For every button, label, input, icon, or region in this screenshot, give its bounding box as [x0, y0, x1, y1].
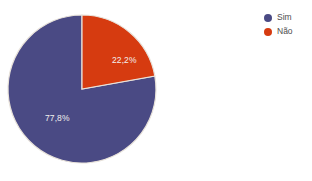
circle-marker-icon: [264, 28, 272, 36]
pie-slice-nao[interactable]: [82, 15, 155, 89]
legend-item-label: Não: [277, 25, 293, 38]
legend-item-sim[interactable]: Sim: [264, 11, 312, 24]
legend-item-nao[interactable]: Não: [264, 25, 312, 38]
pie-slice-label-sim: 77,8%: [45, 113, 70, 123]
circle-marker-icon: [264, 14, 272, 22]
legend-item-label: Sim: [277, 11, 292, 24]
chart-legend: Sim Não: [264, 11, 312, 39]
pie-slice-label-nao: 22,2%: [112, 55, 137, 65]
pie-slices-group: [8, 15, 156, 163]
pie-chart-figure: 77,8% 22,2% Sim Não: [0, 0, 312, 181]
